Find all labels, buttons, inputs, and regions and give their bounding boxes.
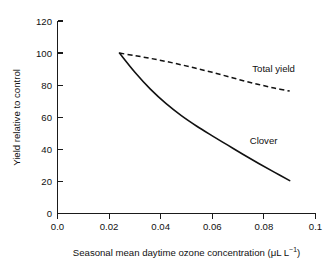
- x-axis-title-close: ): [297, 247, 300, 258]
- y-tick-label-20: 20: [41, 176, 52, 187]
- series-label-total-yield: Total yield: [252, 63, 295, 74]
- y-tick-label-60: 60: [41, 112, 52, 123]
- y-tick-label-120: 120: [36, 16, 52, 27]
- x-tick-label-0.06: 0.06: [203, 221, 222, 232]
- x-axis-title-main: Seasonal mean daytime ozone concentratio…: [73, 247, 272, 258]
- y-tick-label-100: 100: [36, 48, 52, 59]
- series-label-clover: Clover: [250, 135, 279, 146]
- x-tick-label-0.08: 0.08: [255, 221, 274, 232]
- y-tick-label-0: 0: [47, 208, 52, 219]
- y-axis-tick-labels: 0 20 40 60 80 100 120: [36, 16, 52, 220]
- y-axis-title: Yield relative to control: [11, 69, 22, 166]
- x-axis-ticks: [58, 214, 316, 219]
- x-tick-label-0.04: 0.04: [151, 221, 170, 232]
- x-axis-title-unit: μL L: [271, 247, 290, 258]
- x-tick-label-0.0: 0.0: [51, 221, 64, 232]
- line-chart: 0 20 40 60 80 100 120 0.0 0.02 0.04 0.06…: [0, 0, 333, 270]
- y-axis-ticks: [58, 21, 63, 214]
- x-axis-title: Seasonal mean daytime ozone concentratio…: [73, 246, 300, 258]
- y-tick-label-40: 40: [41, 144, 52, 155]
- x-tick-label-0.02: 0.02: [100, 221, 119, 232]
- x-axis-tick-labels: 0.0 0.02 0.04 0.06 0.08 0.1: [51, 221, 322, 232]
- x-tick-label-0.1: 0.1: [309, 221, 322, 232]
- chart-figure: 0 20 40 60 80 100 120 0.0 0.02 0.04 0.06…: [0, 0, 333, 270]
- y-tick-label-80: 80: [41, 80, 52, 91]
